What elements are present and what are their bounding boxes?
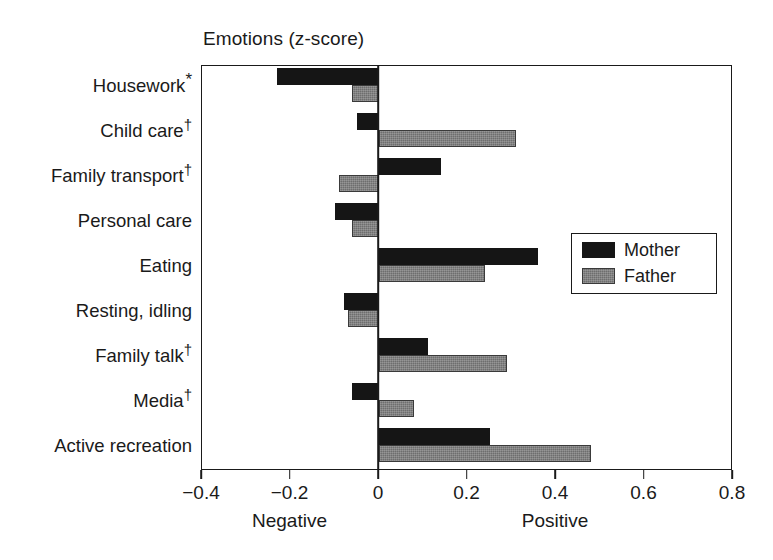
x-axis-tick [200, 470, 202, 479]
category-label-text: Active recreation [0, 435, 192, 457]
axis-caption-positive: Positive [522, 510, 589, 532]
axis-caption-negative: Negative [252, 510, 327, 532]
dagger-marker: † [184, 160, 192, 177]
category-label-text: Housework* [0, 75, 192, 97]
dagger-marker: † [184, 115, 192, 132]
bar-mother [335, 203, 379, 220]
x-axis-tick-label: 0 [373, 482, 384, 504]
bar-mother [379, 428, 490, 445]
legend-swatch-mother-icon [582, 242, 615, 258]
x-axis-tick [643, 470, 645, 479]
bar-father [379, 445, 591, 462]
bar-father [352, 220, 379, 237]
legend-entry-father: Father [582, 266, 676, 286]
legend-swatch-father-icon [582, 268, 615, 284]
bar-mother [379, 248, 538, 265]
bar-father [379, 130, 516, 147]
x-axis-tick [554, 470, 556, 479]
x-axis-tick-label: −0.4 [182, 482, 220, 504]
x-axis-tick [466, 470, 468, 479]
category-label-text: Family transport† [0, 165, 192, 187]
bar-father [352, 85, 379, 102]
x-axis-tick-label: 0.8 [719, 482, 745, 504]
x-axis-tick-label: 0.6 [630, 482, 656, 504]
legend-entry-mother: Mother [582, 240, 680, 260]
bar-group [202, 291, 731, 336]
bar-father [379, 265, 485, 282]
bar-father [379, 355, 507, 372]
emotions-z-score-figure: Emotions (z-score) Housework*Child care†… [0, 0, 773, 560]
bar-group [202, 381, 731, 426]
bar-father [339, 175, 379, 192]
category-label-text: Eating [0, 255, 192, 277]
bar-father [379, 400, 414, 417]
x-axis-tick [731, 470, 733, 479]
category-label-text: Personal care [0, 210, 192, 232]
bar-mother [379, 338, 428, 355]
bar-mother [344, 293, 379, 310]
x-axis-tick-label: 0.4 [542, 482, 568, 504]
bar-group [202, 426, 731, 471]
category-label-text: Resting, idling [0, 300, 192, 322]
bar-mother [379, 158, 441, 175]
bar-group [202, 111, 731, 156]
x-axis-tick [377, 470, 379, 479]
x-axis-tick-label: −0.2 [271, 482, 309, 504]
chart-legend: Mother Father [571, 233, 717, 294]
asterisk-marker: * [185, 69, 192, 88]
category-label-text: Media† [0, 390, 192, 412]
bar-mother [277, 68, 379, 85]
zero-reference-line [378, 66, 380, 469]
bar-mother [352, 383, 379, 400]
chart-title: Emotions (z-score) [203, 28, 364, 50]
x-axis-tick [289, 470, 291, 479]
x-axis-tick-label: 0.2 [453, 482, 479, 504]
legend-label-mother: Mother [624, 240, 680, 261]
dagger-marker: † [184, 340, 192, 357]
bar-father [348, 310, 379, 327]
bar-group [202, 336, 731, 381]
legend-label-father: Father [624, 266, 676, 287]
bar-group [202, 66, 731, 111]
bar-mother [357, 113, 379, 130]
dagger-marker: † [184, 385, 192, 402]
bar-group [202, 156, 731, 201]
category-label-text: Child care† [0, 120, 192, 142]
category-label-text: Family talk† [0, 345, 192, 367]
